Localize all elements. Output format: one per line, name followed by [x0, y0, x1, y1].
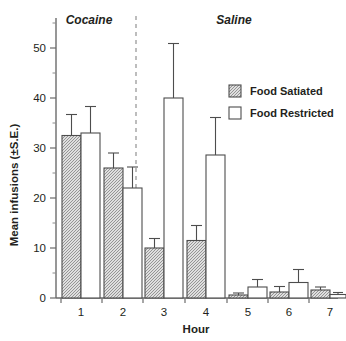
legend-label-food-restricted: Food Restricted	[250, 107, 334, 119]
hatched-swatch	[229, 85, 241, 97]
bar-group-hour-5	[229, 280, 267, 299]
bar-satiated	[187, 241, 206, 299]
bar-satiated	[229, 295, 248, 298]
errorbar-satiated	[274, 287, 285, 293]
bar-restricted	[248, 287, 267, 298]
x-tick-label: 4	[203, 306, 210, 318]
errorbar-restricted	[168, 44, 179, 99]
bar-satiated	[145, 248, 164, 298]
y-tick-label: 0	[40, 292, 46, 304]
y-tick-label: 20	[33, 192, 46, 204]
bar-restricted	[206, 155, 225, 298]
panel-label-saline: Saline	[216, 13, 252, 27]
x-tick-label: 2	[120, 306, 126, 318]
figure-panel: 0 10 20 30 40 50 Mean infusions (±S.E.) …	[0, 0, 346, 341]
bar-satiated	[62, 136, 81, 299]
errorbar-restricted	[293, 270, 304, 283]
bar-chart: 0 10 20 30 40 50 Mean infusions (±S.E.) …	[0, 0, 346, 341]
x-axis-ticks	[61, 298, 309, 303]
bar-restricted	[123, 188, 142, 298]
y-axis-title: Mean infusions (±S.E.)	[8, 124, 20, 247]
bar-restricted	[81, 133, 100, 298]
y-tick-label: 30	[33, 142, 46, 154]
y-tick-label: 10	[33, 242, 46, 254]
chart-legend: Food Satiated Food Restricted	[229, 85, 334, 119]
x-tick-label: 7	[327, 306, 333, 318]
y-axis-tick-labels: 0 10 20 30 40 50	[33, 42, 46, 304]
panel-label-cocaine: Cocaine	[66, 13, 113, 27]
white-swatch	[229, 107, 241, 119]
caption-edge-artifact	[0, 334, 346, 339]
errorbar-satiated	[191, 226, 202, 241]
bar-restricted	[164, 98, 183, 298]
bar-group-hour-7	[311, 287, 346, 298]
y-tick-label: 40	[33, 92, 46, 104]
bar-satiated	[104, 168, 123, 298]
bar-group-hour-3	[145, 44, 183, 299]
bar-group-hour-6	[270, 270, 308, 299]
bar-group-hour-2	[104, 153, 142, 298]
errorbar-satiated	[108, 153, 119, 168]
x-tick-label: 1	[78, 306, 84, 318]
bar-group-hour-1	[62, 107, 100, 299]
bar-group-hour-4	[187, 118, 225, 299]
errorbar-satiated	[149, 239, 160, 249]
errorbar-restricted	[252, 280, 263, 288]
bar-satiated	[270, 292, 289, 298]
errorbar-restricted	[85, 107, 96, 134]
x-tick-label: 5	[245, 306, 251, 318]
legend-label-food-satiated: Food Satiated	[250, 85, 323, 97]
x-tick-label: 6	[286, 306, 292, 318]
x-tick-label: 3	[161, 306, 167, 318]
bar-satiated	[311, 290, 330, 298]
bar-restricted	[289, 283, 308, 299]
x-axis-tick-labels: 1 2 3 4 5 6 7	[78, 306, 333, 318]
errorbar-satiated	[66, 115, 77, 136]
y-tick-label: 50	[33, 42, 46, 54]
errorbar-restricted	[210, 118, 221, 156]
bar-restricted	[330, 295, 346, 299]
